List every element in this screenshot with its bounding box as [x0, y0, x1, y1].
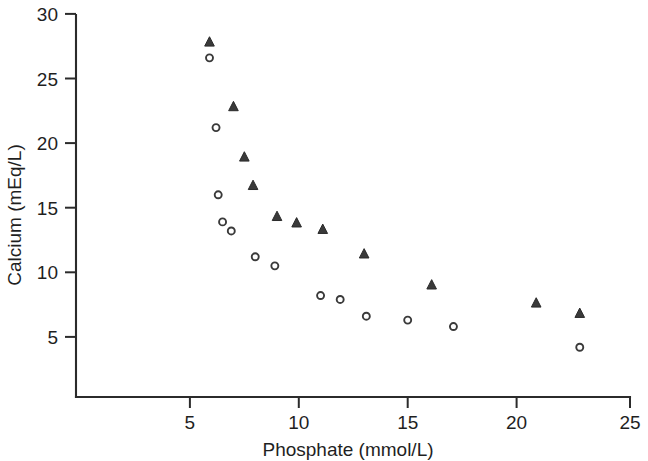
circle-marker: [206, 54, 213, 61]
x-tick-label: 20: [506, 412, 527, 433]
y-tick-label: 30: [37, 4, 58, 25]
triangle-marker: [318, 224, 328, 233]
y-tick-label: 15: [37, 198, 58, 219]
circle-marker: [317, 292, 324, 299]
triangle-marker: [531, 298, 541, 307]
scatter-plot-figure: 51015202530510152025 Phosphate (mmol/L) …: [0, 0, 648, 461]
circle-marker: [271, 262, 278, 269]
x-axis-title: Phosphate (mmol/L): [262, 439, 433, 460]
circle-marker: [450, 323, 457, 330]
triangle-marker: [272, 211, 282, 220]
plot-canvas: 51015202530510152025 Phosphate (mmol/L) …: [0, 0, 648, 461]
y-tick-label: 5: [47, 327, 58, 348]
circle-marker: [576, 344, 583, 351]
triangle-marker: [229, 101, 239, 110]
circle-marker: [404, 317, 411, 324]
triangle-marker: [575, 308, 585, 317]
circle-marker: [213, 124, 220, 131]
circle-marker: [337, 296, 344, 303]
data-points: [205, 37, 585, 351]
circle-marker: [219, 218, 226, 225]
circle-marker: [252, 253, 259, 260]
y-tick-label: 10: [37, 262, 58, 283]
y-axis-title: Calcium (mEq/L): [4, 144, 25, 285]
triangle-marker: [292, 218, 302, 227]
series-circle: [206, 54, 583, 350]
series-triangle: [205, 37, 585, 318]
x-tick-label: 25: [619, 412, 640, 433]
x-tick-label: 5: [185, 412, 196, 433]
triangle-marker: [359, 249, 369, 258]
triangle-marker: [248, 180, 258, 189]
axis-tick-labels: 51015202530510152025: [37, 4, 641, 433]
circle-marker: [363, 313, 370, 320]
triangle-marker: [427, 280, 437, 289]
triangle-marker: [240, 152, 250, 161]
y-tick-label: 20: [37, 133, 58, 154]
x-tick-label: 15: [397, 412, 418, 433]
triangle-marker: [205, 37, 215, 46]
x-tick-label: 10: [288, 412, 309, 433]
axes: [76, 15, 630, 397]
circle-marker: [215, 191, 222, 198]
axis-ticks: [65, 14, 630, 408]
y-tick-label: 25: [37, 69, 58, 90]
circle-marker: [228, 227, 235, 234]
